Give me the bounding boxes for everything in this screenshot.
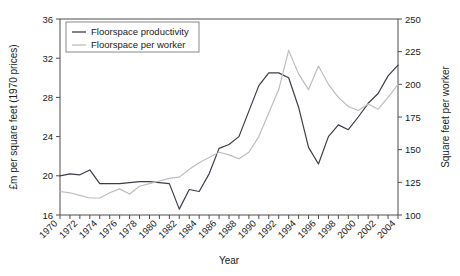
y2-tick-label: 150 <box>405 144 421 155</box>
legend-label-2: Floorspace per worker <box>91 39 186 50</box>
legend-label-1: Floorspace productivity <box>91 26 189 37</box>
chart-container: 162024283236 100125150175200225250 19701… <box>0 0 460 276</box>
y-tick-label: 20 <box>42 170 53 181</box>
line-chart: 162024283236 100125150175200225250 19701… <box>0 0 460 276</box>
chart-legend: Floorspace productivityFloorspace per wo… <box>66 22 199 52</box>
y2-tick-label: 175 <box>405 112 421 123</box>
y2-tick-label: 250 <box>405 14 421 25</box>
y-tick-label: 36 <box>42 14 53 25</box>
y-axis-right-title: Square feet per worker <box>440 65 451 167</box>
y-tick-label: 24 <box>42 131 53 142</box>
y-tick-label: 32 <box>42 53 53 64</box>
y2-tick-label: 200 <box>405 79 421 90</box>
y-tick-label: 28 <box>42 92 53 103</box>
y2-tick-label: 225 <box>405 46 421 57</box>
y2-tick-label: 100 <box>405 210 421 221</box>
x-axis-title: Year <box>219 255 240 266</box>
y-axis-left-title: £m per square feet (1970 prices) <box>8 44 19 189</box>
y2-tick-label: 125 <box>405 177 421 188</box>
